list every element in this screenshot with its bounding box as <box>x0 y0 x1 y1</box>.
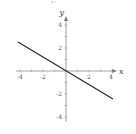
y-tick-label: 4 <box>58 21 62 28</box>
artifact-dot <box>51 1 53 3</box>
artifact-dot <box>118 108 119 109</box>
x-tick-label: 2 <box>87 73 91 80</box>
x-tick-label: -2 <box>40 73 46 80</box>
y-tick-label: -2 <box>56 90 62 97</box>
x-axis-label: x <box>119 67 124 76</box>
data-line <box>18 42 113 99</box>
coordinate-plot: -4 -2 2 4 4 2 -2 -4 x y <box>0 0 136 134</box>
y-tick-label: 2 <box>58 44 62 51</box>
artifact-dot <box>131 87 132 88</box>
artifact-dot <box>54 1 55 2</box>
x-tick-label: 4 <box>109 73 113 80</box>
x-tick-label: -4 <box>17 73 23 80</box>
y-tick-label: -4 <box>56 113 62 120</box>
y-axis-arrow-icon <box>64 16 68 21</box>
y-axis-label: y <box>58 8 64 17</box>
